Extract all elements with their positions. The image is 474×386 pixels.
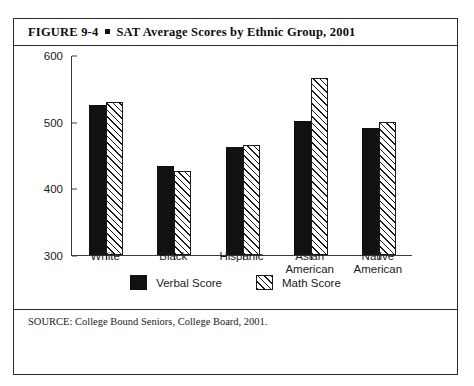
figure-number: FIGURE 9-4: [28, 25, 98, 39]
chart-axes: 600500400300: [71, 56, 412, 256]
y-axis-tick-mark: [72, 189, 77, 190]
source-note: SOURCE: College Bound Seniors, College B…: [28, 316, 267, 327]
page-title: FIGURE 9-4SAT Average Scores by Ethnic G…: [28, 25, 356, 40]
y-axis-tick-label: 400: [17, 183, 72, 195]
bar-group: [225, 145, 261, 255]
bar-group: [156, 166, 192, 255]
bar-group: [361, 122, 397, 255]
bar-verbal: [294, 121, 311, 255]
bar-verbal: [226, 147, 243, 255]
source-divider: [14, 309, 457, 310]
bar-verbal: [89, 105, 106, 255]
legend-swatch-verbal-icon: [130, 275, 147, 290]
legend-item-verbal: Verbal Score: [130, 275, 222, 290]
figure-title-bar: FIGURE 9-4SAT Average Scores by Ethnic G…: [14, 19, 457, 46]
chart-plot-area: 600500400300 WhiteBlackHispanicAsianAmer…: [14, 46, 457, 268]
legend-item-math: Math Score: [256, 275, 341, 290]
bullet-square-icon: [105, 29, 110, 34]
y-axis-tick-label: 600: [17, 50, 72, 62]
bar-verbal: [157, 166, 174, 255]
legend-label-math: Math Score: [282, 277, 341, 289]
figure-title: SAT Average Scores by Ethnic Group, 2001: [116, 25, 355, 39]
bar-group: [88, 102, 124, 255]
chart-legend: Verbal Score Math Score: [14, 275, 457, 290]
bar-group: [293, 78, 329, 255]
bar-math: [174, 171, 191, 255]
y-axis-tick-mark: [72, 56, 77, 57]
bar-math: [243, 145, 260, 255]
bar-math: [379, 122, 396, 255]
legend-swatch-math-icon: [256, 275, 273, 290]
y-axis-tick-mark: [72, 122, 77, 123]
y-axis-tick-label: 500: [17, 117, 72, 129]
x-axis-tick-label: NativeAmerican: [323, 250, 433, 276]
x-axis-label-line: Native: [323, 250, 433, 263]
legend-label-verbal: Verbal Score: [156, 277, 222, 289]
bar-verbal: [362, 128, 379, 255]
bar-math: [106, 102, 123, 255]
figure-container: FIGURE 9-4SAT Average Scores by Ethnic G…: [13, 18, 458, 375]
bar-math: [311, 78, 328, 255]
